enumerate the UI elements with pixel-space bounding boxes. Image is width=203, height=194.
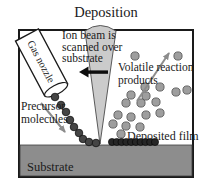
ion-beam-label-line3: substrate — [62, 52, 103, 64]
scan-arrow-shaft — [86, 70, 108, 73]
ion-beam-label-line2: scanned over — [62, 41, 123, 53]
molecule-dot — [152, 98, 160, 106]
molecule-dot — [109, 120, 117, 128]
molecule-dot — [174, 52, 182, 60]
precursor-molecules-label: Precursor molecules — [21, 100, 68, 125]
molecule-dot — [142, 111, 150, 119]
volatile-label-line2: products — [118, 74, 158, 87]
molecule-dot — [85, 138, 93, 146]
deposition-diagram: Deposition Gas nozzle Ion beam is scanne… — [0, 0, 203, 194]
molecule-dot — [131, 52, 139, 60]
molecule-dot — [183, 86, 191, 94]
diagram-canvas: Deposition Gas nozzle Ion beam is scanne… — [0, 0, 203, 194]
molecule-dot — [117, 130, 125, 138]
molecule-dot — [122, 99, 130, 107]
molecule-dot — [92, 139, 100, 147]
molecule-dot — [127, 91, 135, 99]
diagram-title: Deposition — [74, 4, 138, 20]
ion-beam-label-line1: Ion beam is — [62, 29, 116, 41]
molecule-dot — [156, 109, 164, 117]
molecule-dot — [114, 111, 122, 119]
molecule-dot — [127, 113, 135, 121]
precursor-label-line2: molecules — [21, 113, 68, 125]
deposited-film-label: Deposited film — [127, 129, 199, 143]
substrate-label: Substrate — [27, 160, 74, 174]
precursor-label-line1: Precursor — [21, 100, 65, 112]
volatile-label-line1: Volatile reaction — [118, 61, 194, 73]
molecule-dot — [172, 88, 180, 96]
